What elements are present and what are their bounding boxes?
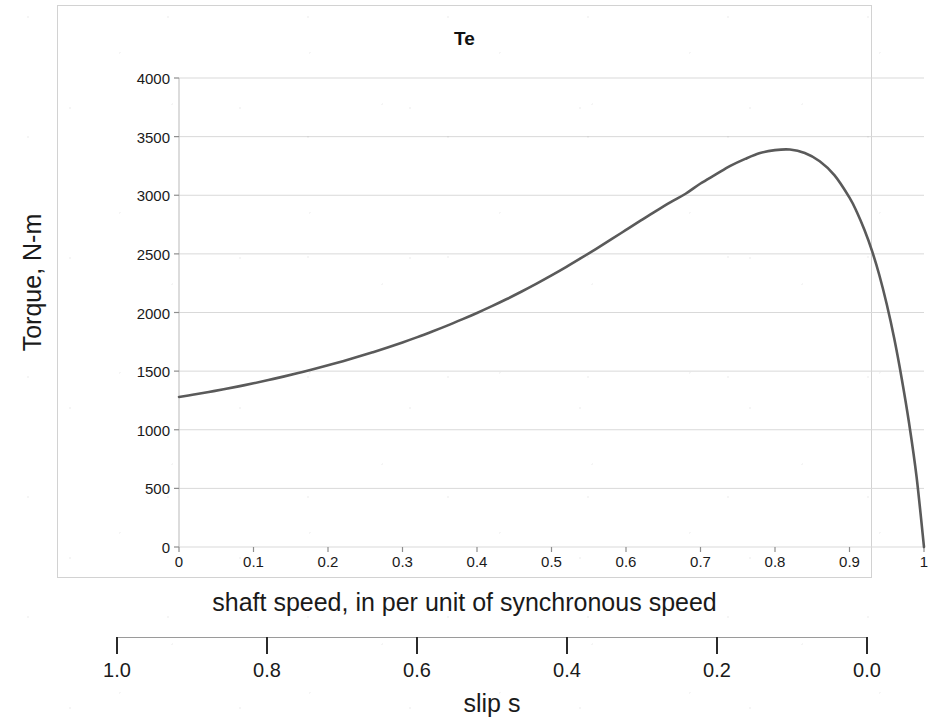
x-axis-tick-label: 0 [175, 553, 183, 570]
x-axis-tick-label: 0.1 [243, 553, 264, 570]
slip-axis-tick [416, 637, 418, 654]
chart-frame: Te 05001000150020002500300035004000 00.1… [57, 5, 872, 578]
slip-axis-tick-label: 0.0 [853, 659, 881, 682]
y-axis-tick-label: 3500 [112, 128, 170, 145]
x-axis-tick-label: 0.9 [839, 553, 860, 570]
y-axis-tick-label: 0 [112, 539, 170, 556]
x-axis-tick-label: 0.2 [318, 553, 339, 570]
x-axis-tick-label: 0.6 [616, 553, 637, 570]
x-axis-tick-label: 0.3 [392, 553, 413, 570]
y-axis-tick-label: 3000 [112, 187, 170, 204]
slip-axis-tick-label: 0.8 [253, 659, 281, 682]
slip-axis-line [117, 637, 867, 638]
y-axis-tick-label: 1500 [112, 363, 170, 380]
slip-axis-tick-label: 0.2 [703, 659, 731, 682]
x-axis-ticks [174, 78, 924, 552]
y-axis-tick-label: 500 [112, 480, 170, 497]
x-axis-tick-label: 0.7 [690, 553, 711, 570]
chart-title: Te [58, 28, 871, 50]
y-axis-tick-label: 1000 [112, 421, 170, 438]
slip-axis-tick [116, 637, 118, 654]
x-axis-tick-label: 0.5 [541, 553, 562, 570]
x-axis-title: shaft speed, in per unit of synchronous … [57, 588, 872, 617]
slip-axis-tick [566, 637, 568, 654]
x-axis-tick-label: 0.8 [765, 553, 786, 570]
slip-axis-tick-label: 1.0 [103, 659, 131, 682]
slip-axis-tick-label: 0.4 [553, 659, 581, 682]
x-axis-tick-label: 0.4 [467, 553, 488, 570]
slip-axis-tick [716, 637, 718, 654]
y-axis-tick-label: 4000 [112, 70, 170, 87]
slip-axis-tick [266, 637, 268, 654]
gridlines [179, 78, 924, 547]
slip-axis: 1.00.80.60.40.20.0 slip s [117, 637, 867, 717]
plot-area [179, 78, 924, 547]
slip-axis-tick [866, 637, 868, 654]
y-axis-tick-label: 2000 [112, 304, 170, 321]
y-axis-title: Torque, N-m [18, 138, 47, 428]
plot-svg [179, 78, 924, 547]
torque-curve [179, 149, 924, 547]
slip-axis-tick-label: 0.6 [403, 659, 431, 682]
slip-axis-title: slip s [117, 689, 867, 717]
y-axis-tick-label: 2500 [112, 245, 170, 262]
x-axis-tick-labels: 00.10.20.30.40.50.60.70.80.91 [179, 553, 924, 577]
x-axis-tick-label: 1 [920, 553, 928, 570]
y-axis-tick-labels: 05001000150020002500300035004000 [108, 78, 170, 547]
